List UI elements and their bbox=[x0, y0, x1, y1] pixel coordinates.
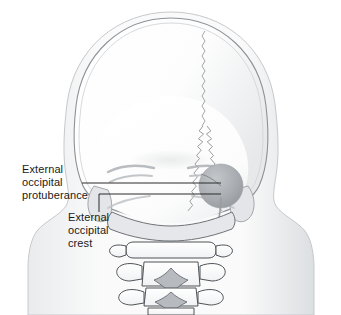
label-line-1: External bbox=[22, 163, 88, 176]
vertebra-c4 bbox=[148, 308, 194, 315]
label-line-3: protuberance bbox=[22, 189, 88, 202]
anatomy-illustration bbox=[0, 0, 341, 315]
label-line-3: crest bbox=[68, 237, 109, 250]
label-line-1: External bbox=[68, 211, 109, 224]
label-external-occipital-protuberance: External occipital protuberance bbox=[22, 163, 88, 202]
vertebra-c1 bbox=[110, 242, 233, 258]
cervical-vertebrae bbox=[110, 242, 233, 315]
label-line-2: occipital bbox=[68, 224, 109, 237]
label-line-2: occipital bbox=[22, 176, 88, 189]
label-external-occipital-crest: External occipital crest bbox=[68, 211, 109, 250]
